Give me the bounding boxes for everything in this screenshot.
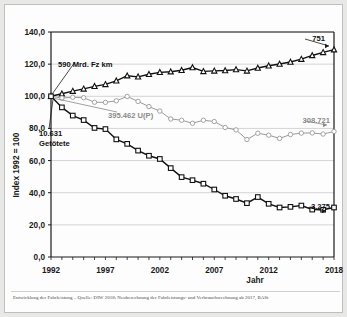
data-point bbox=[49, 94, 54, 99]
data-point bbox=[158, 109, 162, 113]
annotation-getoetete-start-line2: Getötete bbox=[39, 139, 70, 148]
data-point bbox=[146, 71, 151, 76]
data-point bbox=[81, 118, 86, 123]
end-label-fahrleistung: 751 bbox=[312, 34, 325, 43]
data-point bbox=[212, 119, 216, 123]
figure-caption: Entwicklung der Fahrleistung – Quelle: D… bbox=[13, 294, 338, 301]
series-line bbox=[51, 50, 334, 97]
data-point bbox=[179, 118, 183, 122]
screenshot-root: 0,020,040,060,080,0100,0120,0140,0 19921… bbox=[0, 0, 347, 317]
data-point bbox=[81, 96, 85, 100]
data-point bbox=[92, 84, 97, 89]
data-point bbox=[114, 99, 118, 103]
data-point bbox=[103, 127, 108, 132]
data-point bbox=[321, 132, 325, 136]
data-point bbox=[277, 61, 282, 66]
data-point bbox=[266, 63, 271, 68]
caption-divider bbox=[11, 291, 340, 292]
data-point bbox=[70, 88, 75, 93]
data-point bbox=[179, 67, 184, 72]
x-axis-tick-label: 1992 bbox=[42, 266, 61, 275]
data-point bbox=[288, 132, 292, 136]
data-point bbox=[201, 181, 206, 186]
data-point bbox=[212, 187, 217, 192]
data-point bbox=[310, 131, 314, 135]
data-point bbox=[332, 129, 336, 133]
data-point bbox=[168, 69, 173, 74]
annotation-unfaelle-start: 395.462 U(P) bbox=[108, 111, 154, 120]
data-point bbox=[310, 53, 315, 58]
data-point bbox=[234, 197, 239, 202]
data-point bbox=[288, 205, 293, 210]
data-point bbox=[256, 131, 260, 135]
data-point bbox=[299, 56, 304, 61]
data-point bbox=[212, 68, 217, 73]
data-point bbox=[81, 86, 86, 91]
x-axis-tick-labels: 199219972002200720122018 bbox=[42, 266, 344, 275]
data-point bbox=[114, 137, 119, 142]
data-point bbox=[245, 137, 249, 141]
x-axis-tick-label: 2018 bbox=[325, 266, 344, 275]
series-fahrleistung bbox=[48, 47, 336, 99]
data-point bbox=[125, 73, 130, 78]
data-point bbox=[158, 157, 163, 162]
data-point bbox=[190, 65, 195, 70]
data-point bbox=[321, 50, 326, 55]
series-unfaelle mit personenschaden bbox=[49, 94, 336, 142]
data-point bbox=[179, 175, 184, 180]
data-point bbox=[147, 104, 151, 108]
data-point bbox=[233, 67, 238, 72]
data-point bbox=[147, 153, 152, 158]
line-chart: 0,020,040,060,080,0100,0120,0140,0 19921… bbox=[5, 5, 344, 290]
data-point bbox=[136, 148, 141, 153]
data-point bbox=[92, 100, 96, 104]
y-axis-title: Index 1992 = 100 bbox=[12, 132, 21, 197]
data-point bbox=[190, 178, 195, 183]
data-point bbox=[201, 69, 206, 74]
data-point bbox=[299, 131, 303, 135]
x-axis-tick-label: 2007 bbox=[205, 266, 224, 275]
annotation-getoetete-start-line1: 10.631 bbox=[39, 129, 63, 138]
data-point bbox=[59, 91, 64, 96]
chart-area: 0,020,040,060,080,0100,0120,0140,0 19921… bbox=[5, 5, 344, 290]
annotation-fahrleistung-start: 590 Mrd. Fz km bbox=[58, 60, 113, 69]
data-point bbox=[299, 203, 304, 208]
series-getoetete bbox=[49, 94, 337, 212]
data-point bbox=[136, 99, 140, 103]
y-axis-tick-label: 60,0 bbox=[29, 157, 45, 166]
data-point bbox=[92, 126, 97, 131]
leader-arrowhead bbox=[325, 44, 329, 48]
y-axis-tick-label: 140,0 bbox=[25, 28, 46, 37]
data-point bbox=[223, 68, 228, 73]
data-point bbox=[266, 202, 271, 207]
data-point bbox=[234, 128, 238, 132]
y-axis-tick-label: 40,0 bbox=[29, 189, 45, 198]
data-point bbox=[288, 59, 293, 64]
data-point bbox=[256, 195, 261, 200]
data-point bbox=[157, 70, 162, 75]
x-axis-tick-label: 2002 bbox=[151, 266, 170, 275]
data-point bbox=[244, 68, 249, 73]
data-point bbox=[125, 94, 129, 98]
data-point bbox=[103, 82, 108, 87]
data-point bbox=[168, 166, 173, 171]
data-point bbox=[245, 201, 250, 206]
data-point bbox=[125, 142, 130, 147]
data-series-layer bbox=[48, 47, 336, 212]
x-axis-title: Jahr bbox=[246, 276, 264, 285]
data-point bbox=[114, 78, 119, 83]
end-label-getoetete: 3.275 bbox=[311, 202, 331, 211]
data-point bbox=[169, 117, 173, 121]
y-axis-tick-label: 100,0 bbox=[25, 92, 46, 101]
data-point bbox=[103, 100, 107, 104]
x-axis-tick-label: 1997 bbox=[96, 266, 115, 275]
data-point bbox=[135, 74, 140, 79]
data-point bbox=[71, 95, 75, 99]
data-point bbox=[70, 113, 75, 118]
data-point bbox=[255, 65, 260, 70]
end-label-unfaelle: 308.721 bbox=[303, 116, 331, 125]
x-axis-tick-label: 2012 bbox=[260, 266, 279, 275]
data-point bbox=[331, 47, 336, 52]
data-point bbox=[277, 136, 281, 140]
data-point bbox=[60, 105, 65, 110]
